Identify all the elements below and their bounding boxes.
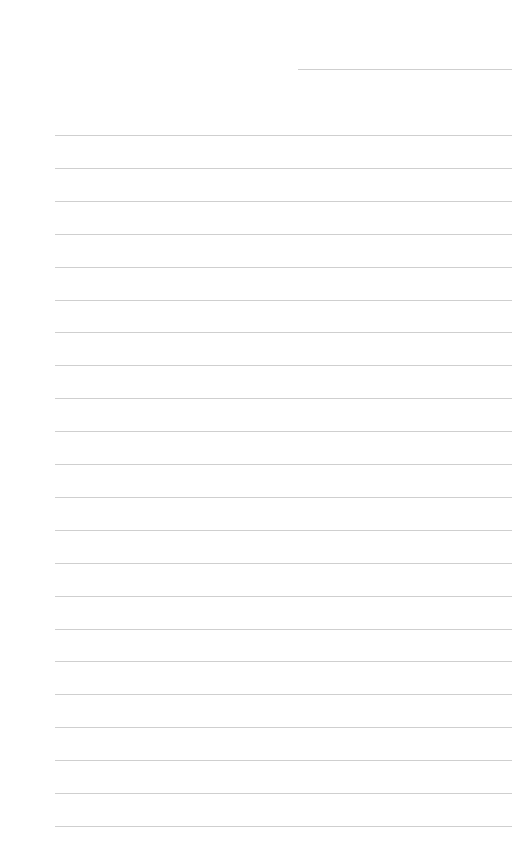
ruled-line <box>55 135 512 136</box>
ruled-line <box>55 661 512 662</box>
ruled-line <box>55 431 512 432</box>
ruled-line <box>55 201 512 202</box>
ruled-line <box>55 168 512 169</box>
bleed-through-header-text <box>0 0 522 14</box>
name-date-line <box>298 69 512 70</box>
ruled-line <box>55 596 512 597</box>
ruled-line <box>55 267 512 268</box>
ruled-line <box>55 530 512 531</box>
ruled-line <box>55 727 512 728</box>
ruled-line <box>55 760 512 761</box>
ruled-line <box>55 332 512 333</box>
ruled-line <box>55 793 512 794</box>
ruled-line <box>55 464 512 465</box>
ruled-line <box>55 826 512 827</box>
ruled-line <box>55 563 512 564</box>
ruled-line <box>55 234 512 235</box>
ruled-line <box>55 629 512 630</box>
ruled-line <box>55 365 512 366</box>
ruled-line <box>55 300 512 301</box>
ruled-line <box>55 694 512 695</box>
ruled-line <box>55 398 512 399</box>
ruled-line <box>55 497 512 498</box>
